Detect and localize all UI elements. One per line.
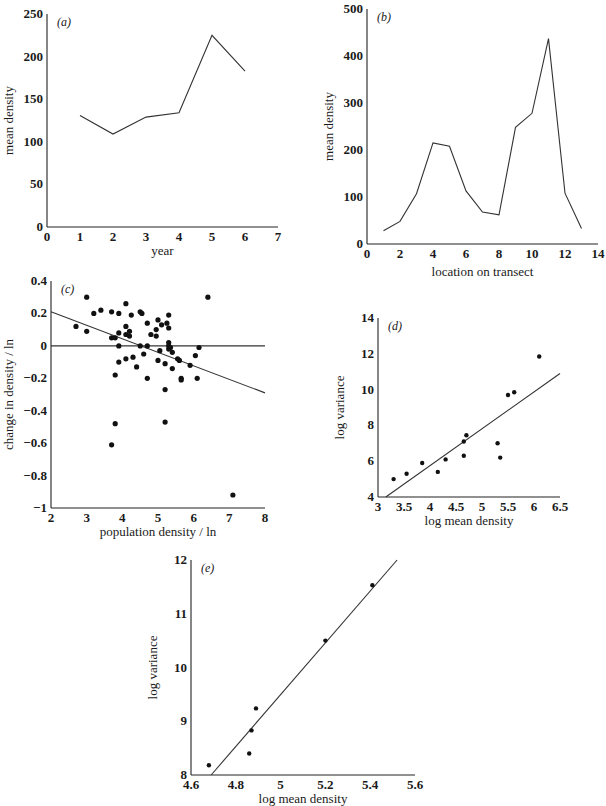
data-point: [138, 343, 143, 348]
data-point: [323, 638, 327, 642]
x-tick-label: 8: [262, 510, 269, 525]
data-point: [129, 313, 134, 318]
data-line: [384, 39, 582, 231]
data-point: [130, 355, 135, 360]
data-point: [207, 763, 211, 767]
y-tick-label: 8: [181, 767, 188, 782]
data-point: [84, 295, 89, 300]
y-tick-label: 100: [344, 189, 364, 204]
x-tick-label: 4.8: [228, 777, 245, 792]
chart-panel-d: 33.544.555.566.5468101214log mean densit…: [332, 310, 569, 528]
data-point: [370, 583, 374, 587]
y-tick-label: 10: [361, 382, 374, 397]
y-tick-label: 0.4: [31, 273, 48, 288]
data-point: [141, 351, 146, 356]
data-line: [80, 35, 245, 134]
data-point: [249, 728, 253, 732]
chart-panel-a: 01234567050100150200250yearmean density(…: [1, 6, 282, 258]
x-tick-label: 4: [430, 246, 437, 261]
y-tick-label: −1: [33, 500, 47, 515]
data-point: [123, 356, 128, 361]
data-point: [462, 454, 466, 458]
chart-panel-e: 4.64.855.25.45.689101112log mean density…: [145, 552, 424, 806]
data-point: [159, 322, 164, 327]
data-point: [506, 393, 510, 397]
x-tick-label: 7: [226, 510, 233, 525]
data-point: [123, 301, 128, 306]
y-axis-label: log variance: [332, 375, 347, 439]
y-tick-label: 200: [24, 49, 44, 64]
x-tick-label: 0: [44, 229, 51, 244]
y-tick-label: 300: [344, 95, 364, 110]
data-point: [512, 390, 516, 394]
data-point: [154, 327, 159, 332]
y-axis-label: change in density / ln: [1, 338, 16, 450]
data-point: [134, 364, 139, 369]
x-tick-label: 2: [110, 229, 117, 244]
x-tick-label: 5: [479, 499, 486, 514]
x-tick-label: 5: [277, 777, 284, 792]
chart-panel-c: 23456780.40.20−0.2−0.4−0.6−0.8−1populati…: [1, 273, 269, 539]
y-tick-label: 0: [37, 219, 44, 234]
data-point: [84, 329, 89, 334]
data-point: [195, 376, 200, 381]
data-point: [116, 360, 121, 365]
y-tick-label: 0.2: [31, 305, 47, 320]
data-point: [254, 706, 258, 710]
y-tick-label: 10: [174, 660, 187, 675]
data-point: [157, 348, 162, 353]
x-tick-label: 3: [143, 229, 150, 244]
y-tick-label: −0.6: [23, 435, 47, 450]
data-point: [164, 321, 169, 326]
y-tick-label: −0.2: [23, 370, 47, 385]
x-axis-label: year: [151, 243, 174, 258]
x-axis-label: log mean density: [259, 791, 348, 806]
x-tick-label: 3: [375, 499, 382, 514]
data-point: [247, 751, 251, 755]
y-tick-label: 11: [175, 606, 187, 621]
x-tick-label: 1: [77, 229, 84, 244]
panel-label: (a): [57, 15, 71, 29]
data-point: [91, 311, 96, 316]
data-point: [443, 457, 447, 461]
y-tick-label: 100: [24, 134, 44, 149]
data-point: [127, 334, 132, 339]
y-axis-label: mean density: [321, 92, 336, 161]
y-tick-label: 12: [174, 552, 187, 567]
x-tick-label: 3: [83, 510, 90, 525]
y-tick-label: 4: [368, 489, 375, 504]
x-tick-label: 5.6: [407, 777, 424, 792]
data-point: [163, 387, 168, 392]
y-tick-label: 6: [368, 453, 375, 468]
data-point: [205, 295, 210, 300]
data-point: [116, 343, 121, 348]
chart-panel-b: 024681012140100200300400500location on t…: [321, 1, 605, 279]
data-point: [163, 361, 168, 366]
x-tick-label: 6.5: [552, 499, 569, 514]
x-tick-label: 3.5: [396, 499, 413, 514]
x-tick-label: 5.5: [500, 499, 517, 514]
data-point: [154, 334, 159, 339]
data-point: [127, 329, 132, 334]
data-point: [116, 330, 121, 335]
data-point: [196, 345, 201, 350]
data-point: [155, 317, 160, 322]
data-point: [420, 461, 424, 465]
data-point: [188, 363, 193, 368]
x-tick-label: 6: [242, 229, 249, 244]
y-tick-label: 12: [361, 346, 374, 361]
y-tick-label: 0: [41, 338, 48, 353]
data-point: [168, 345, 173, 350]
data-point: [113, 421, 118, 426]
x-axis-label: location on transect: [432, 264, 534, 279]
data-point: [170, 366, 175, 371]
x-tick-label: 5: [155, 510, 162, 525]
data-point: [170, 350, 175, 355]
data-point: [145, 343, 150, 348]
data-point: [177, 358, 182, 363]
data-point: [179, 377, 184, 382]
data-point: [537, 354, 541, 358]
panel-label: (b): [377, 10, 391, 24]
data-point: [98, 308, 103, 313]
data-point: [139, 311, 144, 316]
